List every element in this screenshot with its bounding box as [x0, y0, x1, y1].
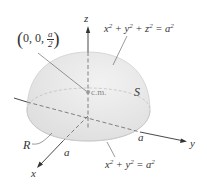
hemisphere-surface [27, 52, 150, 141]
region-label: R [23, 139, 30, 151]
base-equation: x2 + y2 = a2 [105, 160, 155, 171]
z-axis-label: z [84, 13, 88, 24]
center-of-mass-label: c.m. [91, 87, 107, 97]
center-point-label: (0, 0, a2) [17, 29, 60, 50]
y-axis [140, 132, 184, 141]
y-axis-arrow [180, 139, 187, 143]
center-of-mass-dot [86, 90, 90, 94]
y-axis-back [14, 98, 27, 102]
x-axis-label: x [31, 168, 36, 179]
base-eq-leader [107, 142, 115, 157]
z-axis-arrow [86, 26, 90, 33]
radius-label-x: a [64, 147, 70, 158]
x-axis [40, 141, 63, 165]
radius-label-y: a [138, 132, 144, 143]
surface-label: S [134, 86, 140, 98]
y-axis-label: y [190, 138, 195, 149]
surface-equation: x2 + y2 + z2 = a2 [104, 24, 174, 35]
